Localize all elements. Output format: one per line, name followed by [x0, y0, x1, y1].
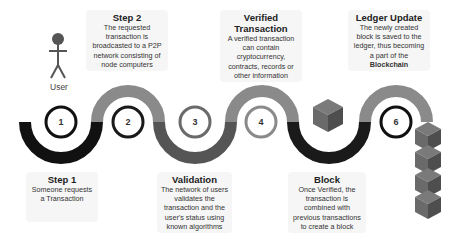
step-title: Ledger Update [351, 12, 427, 23]
step-card-3: Validation The network of users validate… [157, 172, 232, 233]
blockchain-stack-icon [415, 122, 441, 219]
node-label-3: 3 [185, 117, 205, 127]
step-title: Verified Transaction [223, 12, 299, 34]
node-label-6: 6 [386, 117, 406, 127]
blockchain-keyword: Blockchain [370, 60, 408, 69]
step-title: Step 2 [89, 12, 165, 23]
node-label-2: 2 [118, 117, 138, 127]
node-label-1: 1 [51, 117, 71, 127]
cube-icon [313, 99, 343, 132]
step-title: Block [291, 174, 363, 185]
user-label: User [50, 82, 68, 92]
node-label-4: 4 [251, 117, 271, 127]
step-description: The newly created block is saved to the … [351, 23, 427, 69]
step-description: Once Verified, the transaction is combin… [291, 185, 363, 231]
step-card-4: Verified Transaction A verified transact… [220, 10, 302, 82]
step-description: A verified transaction can contain crypt… [223, 34, 299, 80]
step-title: Step 1 [29, 174, 95, 185]
step-description: Someone requests a Transaction [29, 185, 95, 203]
step-title: Validation [160, 174, 229, 185]
user-stick-figure-icon [49, 33, 67, 78]
step-description: The network of users validates the trans… [160, 185, 229, 231]
step-card-2: Step 2 The requested transaction is broa… [86, 10, 168, 71]
step-card-5: Block Once Verified, the transaction is … [288, 172, 366, 233]
step-description: The requested transaction is broadcasted… [89, 23, 165, 69]
blockchain-diagram: User 1 2 3 4 6 Step 2 The requested tran… [0, 0, 465, 239]
step-card-1: Step 1 Someone requests a Transaction [26, 172, 98, 222]
step-card-6: Ledger Update The newly created block is… [348, 10, 430, 71]
